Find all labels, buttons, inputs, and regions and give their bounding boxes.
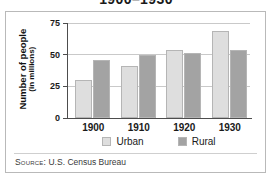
bar-urban-1910 <box>121 66 138 118</box>
bar-rural-1920 <box>184 53 201 118</box>
bar-urban-1900 <box>75 80 92 118</box>
legend-label-urban: Urban <box>116 136 143 147</box>
y-tick-label-50: 50 <box>50 50 60 60</box>
plot-area: 02550751900191019201930 <box>68 18 250 118</box>
legend-label-rural: Rural <box>192 136 216 147</box>
source-note: Source: U.S. Census Bureau <box>15 157 126 167</box>
bar-urban-1920 <box>166 50 183 118</box>
y-axis-title-line2: (in millions) <box>28 29 36 110</box>
legend-item-rural: Rural <box>178 136 216 147</box>
bar-rural-1910 <box>139 55 156 118</box>
x-tick-label-1930: 1930 <box>200 122 260 133</box>
y-tick-mark-75 <box>63 23 68 24</box>
y-tick-mark-0 <box>63 118 68 119</box>
source-divider <box>14 153 257 154</box>
legend-item-urban: Urban <box>102 136 143 147</box>
y-tick-label-0: 0 <box>55 113 60 123</box>
source-text: U.S. Census Bureau <box>48 157 125 167</box>
chart-figure-frame: Number of people (in millions) 025507519… <box>5 11 266 173</box>
plot-inner: 02550751900191019201930 <box>68 18 250 118</box>
bar-group-1900: 1900 <box>75 18 110 118</box>
bar-urban-1930 <box>212 31 229 118</box>
y-tick-label-25: 25 <box>50 81 60 91</box>
chart-title: 1900–1930 <box>0 0 272 7</box>
legend-swatch-urban <box>102 137 111 146</box>
y-axis-title: Number of people (in millions) <box>18 20 36 118</box>
legend-swatch-rural <box>178 137 187 146</box>
y-tick-mark-25 <box>63 86 68 87</box>
y-tick-mark-50 <box>63 54 68 55</box>
bar-rural-1930 <box>230 50 247 118</box>
bar-group-1910: 1910 <box>121 18 156 118</box>
y-tick-label-75: 75 <box>50 18 60 28</box>
bar-group-1920: 1920 <box>166 18 201 118</box>
source-prefix: Source: <box>15 157 46 167</box>
chart-legend: UrbanRural <box>68 136 250 147</box>
bar-rural-1900 <box>93 60 110 118</box>
bar-group-1930: 1930 <box>212 18 247 118</box>
